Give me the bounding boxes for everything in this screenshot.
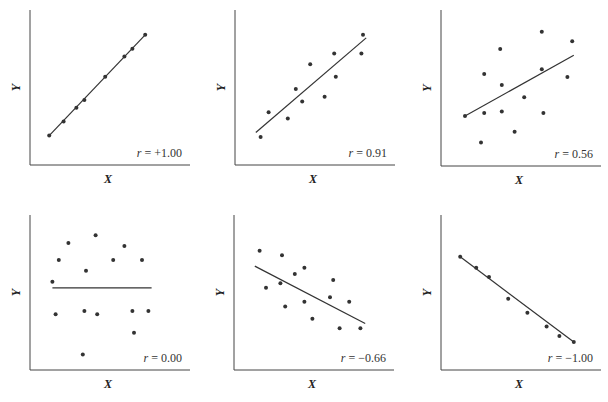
regression-line xyxy=(255,266,365,323)
r-value: = 0.91 xyxy=(353,146,387,160)
data-point xyxy=(498,47,502,51)
data-point xyxy=(334,75,338,79)
data-point xyxy=(294,87,298,91)
data-point xyxy=(57,258,61,262)
data-point xyxy=(280,253,284,257)
data-point xyxy=(62,120,66,124)
data-point xyxy=(302,266,306,270)
data-point xyxy=(500,83,504,87)
data-point xyxy=(283,304,287,308)
data-point xyxy=(540,30,544,34)
y-axis-label: Y xyxy=(420,287,434,296)
scatter-panel-6: YXr = −1.00 xyxy=(420,215,601,391)
x-axis-label: X xyxy=(514,377,524,391)
data-point xyxy=(264,286,268,290)
data-point xyxy=(347,300,351,304)
data-point xyxy=(308,62,312,66)
data-point xyxy=(47,134,51,138)
data-point xyxy=(293,272,297,276)
y-axis-label: Y xyxy=(420,83,434,92)
data-point xyxy=(278,281,282,285)
x-axis-label: X xyxy=(514,173,524,187)
r-value: = −1.00 xyxy=(552,351,593,365)
regression-line xyxy=(460,257,574,342)
correlation-annotation: r = 0.00 xyxy=(144,351,182,365)
data-point xyxy=(302,300,306,304)
data-point xyxy=(122,244,126,248)
data-point xyxy=(95,312,99,316)
data-point xyxy=(458,255,462,259)
y-axis-label: Y xyxy=(9,82,23,91)
data-point xyxy=(545,325,549,329)
data-point xyxy=(541,111,545,115)
correlation-annotation: r = −0.66 xyxy=(341,351,386,365)
axes xyxy=(235,10,395,165)
data-point xyxy=(132,331,136,335)
data-point xyxy=(338,326,342,330)
data-point xyxy=(94,233,98,237)
axes xyxy=(30,215,190,370)
axes xyxy=(441,215,601,370)
axes xyxy=(30,10,190,165)
r-value: = 0.00 xyxy=(148,351,182,365)
data-point xyxy=(111,258,115,262)
data-point xyxy=(487,275,491,279)
data-point xyxy=(259,135,263,139)
data-point xyxy=(506,297,510,301)
data-point xyxy=(474,266,478,270)
data-point xyxy=(525,311,529,315)
data-point xyxy=(328,295,332,299)
data-point xyxy=(522,95,526,99)
y-axis-label: Y xyxy=(9,287,23,296)
data-point xyxy=(130,309,134,313)
data-point xyxy=(572,340,576,344)
data-point xyxy=(286,117,290,121)
x-axis-label: X xyxy=(307,377,317,391)
y-axis-label: Y xyxy=(214,82,228,91)
data-point xyxy=(463,114,467,118)
data-point xyxy=(81,353,85,357)
data-point xyxy=(146,309,150,313)
data-point xyxy=(50,280,54,284)
correlation-annotation: r = 0.56 xyxy=(555,147,593,161)
scatter-panel-1: YXr = +1.00 xyxy=(9,10,190,186)
data-point xyxy=(122,55,126,59)
regression-line xyxy=(465,55,574,116)
scatter-panel-2: YXr = 0.91 xyxy=(214,10,395,186)
data-point xyxy=(130,47,134,51)
data-point xyxy=(331,278,335,282)
data-point xyxy=(332,51,336,55)
y-axis-label: Y xyxy=(213,287,227,296)
data-point xyxy=(82,309,86,313)
data-point xyxy=(361,33,365,37)
data-point xyxy=(557,334,561,338)
scatter-panel-4: YXr = 0.00 xyxy=(9,215,190,391)
data-point xyxy=(300,99,304,103)
data-point xyxy=(140,258,144,262)
data-point xyxy=(540,67,544,71)
correlation-annotation: r = +1.00 xyxy=(137,146,182,160)
x-axis-label: X xyxy=(103,172,113,186)
data-point xyxy=(500,109,504,113)
data-point xyxy=(66,241,70,245)
data-point xyxy=(359,51,363,55)
axes xyxy=(234,215,394,370)
data-point xyxy=(482,111,486,115)
data-point xyxy=(513,130,517,134)
data-point xyxy=(84,269,88,273)
data-point xyxy=(565,75,569,79)
data-point xyxy=(479,141,483,145)
r-value: = +1.00 xyxy=(141,146,182,160)
data-point xyxy=(323,95,327,99)
r-value: = −0.66 xyxy=(345,351,386,365)
data-point xyxy=(310,317,314,321)
correlation-annotation: r = 0.91 xyxy=(349,146,387,160)
data-point xyxy=(482,72,486,76)
x-axis-label: X xyxy=(308,172,318,186)
data-point xyxy=(103,75,107,79)
data-point xyxy=(267,110,271,114)
scatter-panel-5: YXr = −0.66 xyxy=(213,215,394,391)
data-point xyxy=(82,98,86,102)
data-point xyxy=(143,33,147,37)
data-point xyxy=(258,249,262,253)
